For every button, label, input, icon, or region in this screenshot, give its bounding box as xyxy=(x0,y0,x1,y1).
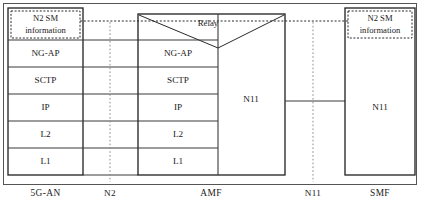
5g-an-layer-ip: IP xyxy=(41,102,49,112)
5g-an-layer-ng-ap: NG-AP xyxy=(31,48,59,58)
amf-layer-ng-ap: NG-AP xyxy=(164,48,192,58)
5g-an-n2-sm-label-line1: N2 SM xyxy=(33,13,58,23)
interface-n2-connectors: N2 xyxy=(83,22,138,198)
entity-label-5g-an: 5G-AN xyxy=(30,188,60,198)
entity-label-smf: SMF xyxy=(370,188,390,198)
amf-layer-l1: L1 xyxy=(173,156,184,166)
node-5g-an: N2 SM information NG-AP SCTP IP L2 L1 5G… xyxy=(8,8,83,198)
interface-n11-connectors: N11 xyxy=(285,22,345,198)
protocol-stack-diagram: N2 SM information NG-AP SCTP IP L2 L1 5G… xyxy=(0,0,424,204)
diagram-canvas: N2 SM information NG-AP SCTP IP L2 L1 5G… xyxy=(0,0,424,204)
node-smf: N2 SM information N11 SMF xyxy=(345,8,415,198)
amf-layer-sctp: SCTP xyxy=(167,75,189,85)
interface-label-n11: N11 xyxy=(305,188,322,198)
smf-body-label: N11 xyxy=(372,102,388,112)
smf-n2-sm-label-line2: information xyxy=(360,25,401,35)
amf-layer-ip: IP xyxy=(174,102,182,112)
node-amf: Relay NG-AP SCTP IP L2 L1 N11 AMF xyxy=(138,14,285,198)
5g-an-layer-sctp: SCTP xyxy=(35,75,57,85)
entity-label-amf: AMF xyxy=(200,188,222,198)
5g-an-layer-l2: L2 xyxy=(40,129,51,139)
relay-label: Relay xyxy=(198,18,219,28)
interface-label-n2: N2 xyxy=(104,188,116,198)
amf-n11-column-label: N11 xyxy=(243,94,259,104)
5g-an-n2-sm-label-line2: information xyxy=(25,25,66,35)
smf-n2-sm-label-line1: N2 SM xyxy=(367,13,392,23)
amf-layer-l2: L2 xyxy=(173,129,184,139)
5g-an-layer-l1: L1 xyxy=(40,156,51,166)
